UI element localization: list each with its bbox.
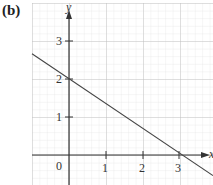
x-tick-label-2: 2 <box>139 161 145 175</box>
x-tick-label-1: 1 <box>102 161 108 175</box>
origin-label: 0 <box>56 159 62 173</box>
graph: 1 2 3 1 2 3 0 x y <box>0 0 213 185</box>
x-axis-name: x <box>208 147 213 161</box>
y-tick-label-3: 3 <box>56 34 62 48</box>
x-tick-label-3: 3 <box>175 161 181 175</box>
y-axis-name: y <box>65 0 72 14</box>
y-tick-label-2: 2 <box>56 72 62 86</box>
y-tick-label-1: 1 <box>56 110 62 124</box>
